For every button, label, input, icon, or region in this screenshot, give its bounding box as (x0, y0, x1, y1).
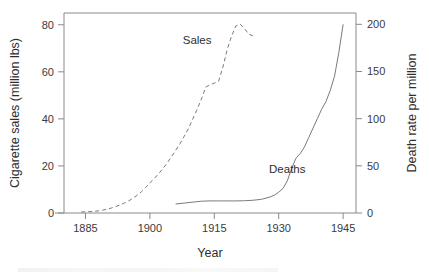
series-annotations: SalesDeaths (183, 34, 306, 176)
y2-tick-label: 50 (367, 160, 379, 172)
figure-container: 18851900191519301945 020406080 050100150… (0, 0, 429, 272)
y-axis-left: 020406080 (42, 19, 64, 219)
y-axis-left-title: Cigarette sales (million lbs) (8, 38, 22, 188)
cigarette-sales-vs-death-rate-chart: 18851900191519301945 020406080 050100150… (0, 0, 429, 272)
y2-tick-label: 100 (367, 113, 385, 125)
y-tick-label: 20 (42, 160, 54, 172)
y2-tick-label: 0 (367, 207, 373, 219)
y-tick-label: 60 (42, 66, 54, 78)
data-series-group (81, 24, 343, 212)
y-axis-right: 050100150200 (356, 18, 385, 219)
y-tick-label: 0 (48, 207, 54, 219)
series-line-sales (81, 24, 253, 212)
y-tick-label: 80 (42, 19, 54, 31)
x-tick-label: 1915 (202, 222, 226, 234)
series-annotation-deaths: Deaths (269, 163, 306, 175)
x-tick-label: 1930 (266, 222, 290, 234)
x-axis-title: Year (197, 246, 222, 260)
series-line-deaths (176, 24, 343, 204)
x-tick-label: 1885 (73, 222, 97, 234)
y-axis-right-title: Death rate per million (405, 54, 419, 173)
x-tick-label: 1900 (138, 222, 162, 234)
y-tick-label: 40 (42, 113, 54, 125)
x-tick-label: 1945 (331, 222, 355, 234)
y2-tick-label: 150 (367, 65, 385, 77)
x-axis: 18851900191519301945 (55, 213, 355, 234)
series-annotation-sales: Sales (183, 34, 212, 46)
y2-tick-label: 200 (367, 18, 385, 30)
